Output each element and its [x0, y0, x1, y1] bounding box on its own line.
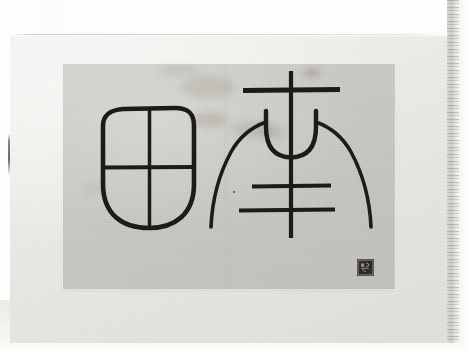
page-edge-outer: [459, 0, 468, 351]
seal-script-di: [211, 71, 371, 238]
seal-script-tian: [103, 108, 194, 228]
page-edge: [447, 0, 459, 351]
rubbing-sheet: [63, 64, 395, 289]
album-page-top-margin: [0, 0, 468, 36]
collector-seal-stamp: [357, 259, 374, 276]
album-page-bottom-margin: [0, 343, 468, 351]
guide-line: [12, 34, 446, 35]
glyph-layer: [63, 64, 395, 289]
photograph-canvas: 田 帝: [0, 0, 468, 351]
